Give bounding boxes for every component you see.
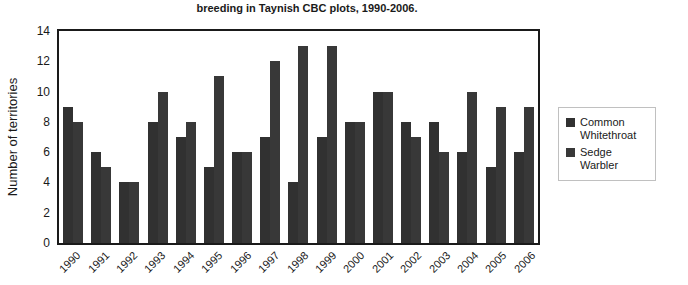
bar-group	[87, 31, 115, 243]
bar-group	[59, 31, 87, 243]
legend-swatch-icon	[566, 148, 575, 157]
bar-1993	[158, 92, 168, 243]
bar-1993	[148, 122, 158, 243]
bar-2000	[355, 122, 365, 243]
bar-group	[256, 31, 284, 243]
y-tick-label: 4	[20, 175, 50, 189]
legend: Common WhitethroatSedge Warbler	[558, 107, 656, 181]
bar-2003	[439, 152, 449, 243]
bar-2003	[429, 122, 439, 243]
bar-1992	[129, 182, 139, 243]
legend-swatch-icon	[566, 118, 575, 127]
bar-1992	[119, 182, 129, 243]
bar-group	[313, 31, 341, 243]
bar-1998	[298, 46, 308, 243]
bar-1999	[317, 137, 327, 243]
plot-area	[57, 29, 540, 245]
bar-2001	[383, 92, 393, 243]
bar-2005	[496, 107, 506, 243]
bar-group	[115, 31, 143, 243]
y-tick-label: 2	[20, 206, 50, 220]
chart-title: breeding in Taynish CBC plots, 1990-2006…	[57, 2, 557, 14]
bar-2004	[467, 92, 477, 243]
bar-group	[482, 31, 510, 243]
bar-2002	[411, 137, 421, 243]
bar-group	[397, 31, 425, 243]
y-tick-label: 12	[20, 54, 50, 68]
bar-group	[200, 31, 228, 243]
legend-item: Common Whitethroat	[566, 116, 650, 142]
legend-label: Sedge Warbler	[580, 146, 650, 172]
bar-1999	[327, 46, 337, 243]
bar-1994	[176, 137, 186, 243]
y-tick-label: 6	[20, 145, 50, 159]
bar-group	[425, 31, 453, 243]
bar-1995	[214, 76, 224, 243]
y-tick-label: 14	[20, 24, 50, 38]
bar-group	[510, 31, 538, 243]
bar-group	[172, 31, 200, 243]
bar-group	[453, 31, 481, 243]
bar-1990	[73, 122, 83, 243]
y-tick-label: 0	[20, 236, 50, 250]
bar-1997	[270, 61, 280, 243]
bar-2004	[457, 152, 467, 243]
bar-1991	[91, 152, 101, 243]
bar-2005	[486, 167, 496, 243]
bars-container	[59, 31, 538, 243]
bar-group	[341, 31, 369, 243]
bar-2006	[524, 107, 534, 243]
legend-label: Common Whitethroat	[580, 116, 650, 142]
bar-group	[144, 31, 172, 243]
legend-items: Common WhitethroatSedge Warbler	[566, 116, 650, 172]
bar-group	[369, 31, 397, 243]
bar-2000	[345, 122, 355, 243]
bar-1990	[63, 107, 73, 243]
bar-1998	[288, 182, 298, 243]
bar-2006	[514, 152, 524, 243]
bar-1997	[260, 137, 270, 243]
bar-1996	[242, 152, 252, 243]
bar-1996	[232, 152, 242, 243]
y-tick-label: 10	[20, 85, 50, 99]
bar-1991	[101, 167, 111, 243]
bar-2001	[373, 92, 383, 243]
bar-group	[284, 31, 312, 243]
legend-item: Sedge Warbler	[566, 146, 650, 172]
bar-2002	[401, 122, 411, 243]
bar-1995	[204, 167, 214, 243]
bar-1994	[186, 122, 196, 243]
y-tick-label: 8	[20, 115, 50, 129]
y-axis-title: Number of territories	[5, 78, 20, 196]
bar-group	[228, 31, 256, 243]
